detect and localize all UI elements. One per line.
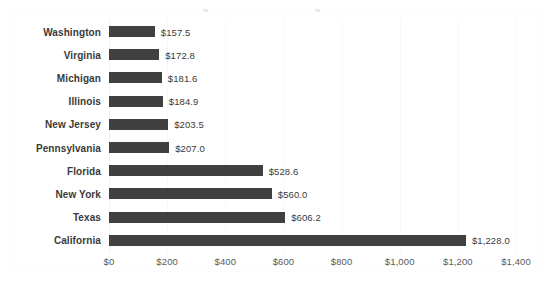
plot-area: Washington$157.5Virginia$172.8Michigan$1… bbox=[109, 20, 516, 252]
bar[interactable] bbox=[109, 235, 466, 246]
x-tick-label: $400 bbox=[215, 256, 237, 267]
x-tick-label: $1,200 bbox=[443, 256, 473, 267]
x-tick-label: $800 bbox=[331, 256, 353, 267]
bar[interactable] bbox=[109, 212, 285, 223]
bar[interactable] bbox=[109, 26, 155, 37]
category-label: New Jersey bbox=[45, 119, 101, 130]
x-tick-label: $600 bbox=[273, 256, 295, 267]
chart-frame: Washington$157.5Virginia$172.8Michigan$1… bbox=[14, 8, 544, 272]
bar-value-label: $606.2 bbox=[291, 212, 321, 223]
bar-rows: Washington$157.5Virginia$172.8Michigan$1… bbox=[109, 20, 516, 252]
bar-value-label: $181.6 bbox=[168, 72, 198, 83]
bar[interactable] bbox=[109, 142, 169, 153]
bar-row: California$1,228.0 bbox=[109, 229, 516, 252]
category-label: Pennsylvania bbox=[36, 142, 101, 153]
bar-value-label: $203.5 bbox=[174, 119, 204, 130]
x-axis-tick-labels: $0$200$400$600$800$1,000$1,200$1,400 bbox=[109, 256, 516, 272]
category-label: Illinois bbox=[69, 96, 101, 107]
bar-value-label: $1,228.0 bbox=[472, 235, 510, 246]
bar[interactable] bbox=[109, 96, 163, 107]
bar-row: Virginia$172.8 bbox=[109, 43, 516, 66]
category-label: Washington bbox=[43, 26, 101, 37]
bar-value-label: $157.5 bbox=[161, 26, 191, 37]
bar[interactable] bbox=[109, 165, 263, 176]
bar-value-label: $560.0 bbox=[278, 188, 308, 199]
bar-row: Texas$606.2 bbox=[109, 206, 516, 229]
bar[interactable] bbox=[109, 188, 272, 199]
bar-row: Washington$157.5 bbox=[109, 20, 516, 43]
artifact-mark bbox=[203, 9, 208, 12]
bar-value-label: $528.6 bbox=[269, 165, 299, 176]
category-label: New York bbox=[56, 188, 101, 199]
bar-value-label: $172.8 bbox=[165, 49, 195, 60]
bar-row: Michigan$181.6 bbox=[109, 66, 516, 89]
bar[interactable] bbox=[109, 72, 162, 83]
x-tick-label: $1,400 bbox=[501, 256, 531, 267]
bar[interactable] bbox=[109, 119, 168, 130]
bar-row: Pennsylvania$207.0 bbox=[109, 136, 516, 159]
category-label: Virginia bbox=[64, 49, 101, 60]
x-tick-label: $200 bbox=[156, 256, 178, 267]
bar-row: New Jersey$203.5 bbox=[109, 113, 516, 136]
bar-row: Florida$528.6 bbox=[109, 159, 516, 182]
bar-row: Illinois$184.9 bbox=[109, 90, 516, 113]
bar-value-label: $184.9 bbox=[169, 96, 199, 107]
category-label: Texas bbox=[73, 212, 101, 223]
gridline-1400 bbox=[516, 20, 517, 252]
x-tick-label: $1,000 bbox=[385, 256, 415, 267]
bar-row: New York$560.0 bbox=[109, 182, 516, 205]
category-label: Florida bbox=[67, 165, 101, 176]
bar-value-label: $207.0 bbox=[175, 142, 205, 153]
bar[interactable] bbox=[109, 49, 159, 60]
category-label: Michigan bbox=[57, 72, 101, 83]
x-tick-label: $0 bbox=[104, 256, 115, 267]
category-label: California bbox=[54, 235, 101, 246]
artifact-mark bbox=[315, 9, 320, 12]
